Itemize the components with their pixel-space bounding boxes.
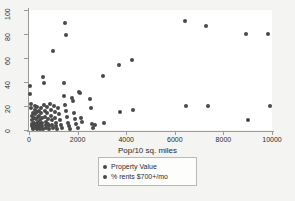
x-tick: [78, 131, 79, 135]
data-point: [55, 127, 59, 131]
y-tick: [24, 82, 28, 83]
legend-item-rents[interactable]: % rents $700+/mo: [103, 172, 192, 181]
x-tick-label: 2000: [70, 136, 86, 143]
legend: Property Value % rents $700+/mo: [98, 157, 197, 186]
x-tick-label: 0: [27, 136, 31, 143]
data-point: [62, 81, 66, 85]
y-tick-label: 20: [4, 105, 11, 113]
data-point: [78, 91, 82, 95]
x-tick-label: 4000: [118, 136, 134, 143]
x-tick: [175, 131, 176, 135]
legend-label: Property Value: [111, 163, 157, 170]
legend-marker-icon: [103, 165, 107, 169]
y-tick-label: 60: [4, 57, 11, 65]
data-point: [93, 123, 97, 127]
data-point: [42, 81, 46, 85]
y-tick: [24, 130, 28, 131]
data-point: [88, 97, 92, 101]
x-tick-label: 6000: [167, 136, 183, 143]
x-axis-title: Pop/10 sq. miles: [0, 146, 295, 155]
x-tick-label: 10000: [262, 136, 281, 143]
data-point: [53, 110, 57, 114]
x-tick-label: 8000: [216, 136, 232, 143]
legend-item-property-value[interactable]: Property Value: [103, 162, 192, 171]
y-tick: [24, 10, 28, 11]
y-tick-label: 0: [4, 129, 11, 133]
legend-label: % rents $700+/mo: [111, 173, 168, 180]
x-tick: [126, 131, 127, 135]
y-axis-line: [28, 8, 29, 132]
y-tick: [24, 34, 28, 35]
x-axis-line: [27, 131, 274, 132]
y-tick-label: 40: [4, 81, 11, 89]
data-point: [28, 84, 32, 88]
y-tick-label: 100: [4, 9, 11, 21]
legend-marker-icon: [103, 175, 107, 179]
x-tick: [272, 131, 273, 135]
data-point: [63, 103, 67, 107]
y-tick-label: 80: [4, 33, 11, 41]
data-point: [65, 115, 69, 119]
data-point: [268, 104, 272, 108]
y-tick: [24, 106, 28, 107]
x-tick: [223, 131, 224, 135]
data-point: [183, 19, 187, 23]
data-point: [60, 126, 64, 130]
data-point: [71, 99, 75, 103]
data-point: [76, 126, 80, 130]
data-point: [206, 104, 210, 108]
data-point: [68, 127, 72, 131]
scatter-plot-figure: 020406080100 0200040006000800010000 Pop/…: [0, 0, 295, 201]
y-tick: [24, 58, 28, 59]
x-tick: [29, 131, 30, 135]
data-point: [184, 104, 188, 108]
